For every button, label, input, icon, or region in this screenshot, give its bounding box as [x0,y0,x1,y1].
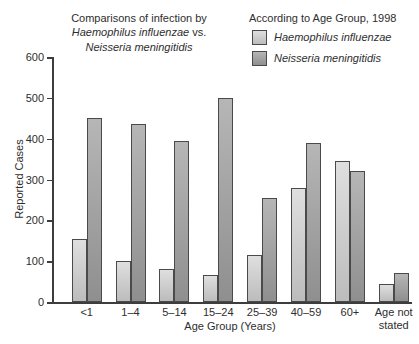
y-tick-mark [47,139,52,141]
y-tick-label: 400 [14,133,44,145]
y-tick-mark [47,302,52,304]
y-tick-mark [47,180,52,182]
y-tick-label: 0 [14,296,44,308]
bar-neisseria-1 [87,118,102,302]
y-axis [52,57,54,302]
chart-title-right: According to Age Group, 1998 [249,12,396,24]
y-tick-mark [47,261,52,263]
y-tick-mark [47,220,52,222]
bar-haemophilus-2 [116,261,131,302]
x-axis-label: Age Group (Years) [170,320,290,332]
legend-item-neisseria: Neisseria meningitidis [252,51,391,65]
legend-swatch-icon [252,51,267,66]
bar-haemophilus-6 [291,188,306,302]
y-tick-mark [47,57,52,59]
bar-neisseria-6 [306,143,321,302]
y-tick-label: 600 [14,51,44,63]
y-tick-label: 500 [14,92,44,104]
y-tick-mark [47,98,52,100]
figure: Comparisons of infection byHaemophilus i… [0,0,419,344]
bar-neisseria-5 [262,198,277,302]
y-tick-label: 100 [14,255,44,267]
y-tick-label: 300 [14,174,44,186]
bar-haemophilus-1 [72,239,87,302]
legend-item-haemophilus: Haemophilus influenzae [252,30,391,44]
bar-haemophilus-4 [203,275,218,302]
chart-title-line: Neisseria meningitidis [53,40,225,54]
x-tick-label: Age not stated [368,306,419,331]
chart-title-line: Haemophilus influenzae vs. [53,25,225,39]
y-tick-label: 200 [14,214,44,226]
legend-label: Haemophilus influenzae [274,31,391,43]
legend-swatch-icon [252,30,267,45]
bar-neisseria-2 [131,124,146,302]
bar-haemophilus-5 [247,255,262,302]
chart-title-left: Comparisons of infection byHaemophilus i… [53,11,225,54]
x-axis [52,302,412,304]
legend-label: Neisseria meningitidis [274,52,381,64]
bar-neisseria-8 [394,273,409,302]
bar-neisseria-7 [350,171,365,302]
bar-neisseria-4 [218,98,233,302]
bar-neisseria-3 [174,141,189,302]
bar-haemophilus-8 [379,284,394,302]
legend: Haemophilus influenzaeNeisseria meningit… [252,30,391,72]
bar-haemophilus-3 [159,269,174,302]
chart-title-line: Comparisons of infection by [53,11,225,25]
bar-haemophilus-7 [335,161,350,302]
